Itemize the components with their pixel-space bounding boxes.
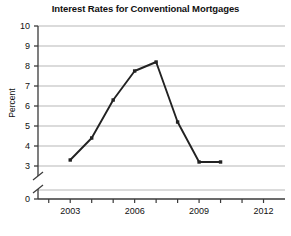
x-tick-label: 2003 <box>50 207 90 216</box>
axes-group <box>38 26 285 199</box>
y-tick-label: 8 <box>10 62 30 71</box>
data-line-series <box>70 62 220 162</box>
y-tick-label: 0 <box>10 195 30 204</box>
y-tick-label: 3 <box>10 162 30 171</box>
chart-container: Interest Rates for Conventional Mortgage… <box>0 0 291 236</box>
y-tick-label: 6 <box>10 102 30 111</box>
y-tick-label: 7 <box>10 82 30 91</box>
chart-plot <box>0 0 291 236</box>
x-tick-label: 2012 <box>244 207 284 216</box>
y-tick-label: 5 <box>10 122 30 131</box>
gridlines-group <box>38 26 285 190</box>
y-tick-label: 9 <box>10 42 30 51</box>
y-tick-label: 10 <box>10 22 30 31</box>
data-point-markers <box>69 60 223 163</box>
x-tick-label: 2006 <box>115 207 155 216</box>
y-tick-label: 4 <box>10 142 30 151</box>
x-tick-label: 2009 <box>179 207 219 216</box>
